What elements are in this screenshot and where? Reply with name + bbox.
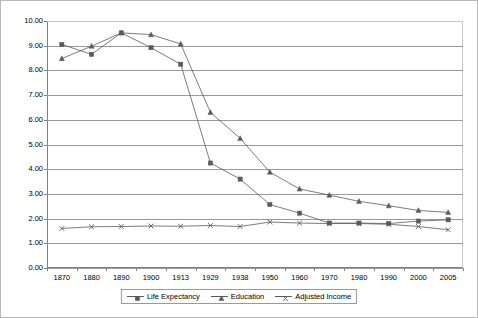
series-line bbox=[62, 33, 448, 224]
x-axis-tick bbox=[314, 268, 315, 271]
x-axis-tick-label: 1960 bbox=[291, 273, 308, 282]
data-point-square bbox=[149, 46, 153, 50]
legend-marker-glyph bbox=[281, 294, 290, 303]
series-line bbox=[62, 33, 448, 213]
x-axis-tick-label: 2005 bbox=[440, 273, 457, 282]
x-axis-tick bbox=[225, 268, 226, 271]
data-point-square bbox=[60, 42, 64, 46]
x-axis-tick bbox=[344, 268, 345, 271]
y-axis-tick-label: 4.00 bbox=[3, 165, 43, 173]
data-point-square bbox=[89, 52, 93, 56]
chart-legend: Life ExpectancyEducationAdjusted Income bbox=[121, 289, 357, 304]
legend-marker-glyph bbox=[217, 294, 226, 303]
data-point-square bbox=[268, 202, 272, 206]
legend-item-label: Adjusted Income bbox=[295, 292, 351, 301]
x-axis-tick-label: 1890 bbox=[113, 273, 130, 282]
x-axis-tick bbox=[196, 268, 197, 271]
y-axis-tick-label: 3.00 bbox=[3, 190, 43, 198]
series-education bbox=[59, 30, 450, 214]
x-axis-tick bbox=[404, 268, 405, 271]
x-axis-tick-label: 1950 bbox=[262, 273, 279, 282]
data-point-square bbox=[387, 221, 391, 225]
y-axis-tick-label: 8.00 bbox=[3, 66, 43, 74]
x-axis-tick-label: 1880 bbox=[83, 273, 100, 282]
legend-marker-glyph bbox=[133, 294, 142, 303]
x-axis-tick-label: 1913 bbox=[172, 273, 189, 282]
y-axis-tick-label: 5.00 bbox=[3, 141, 43, 149]
x-axis-tick bbox=[285, 268, 286, 271]
series-layer bbox=[47, 21, 463, 268]
x-axis-tick bbox=[374, 268, 375, 271]
y-axis-tick-label: 7.00 bbox=[3, 91, 43, 99]
data-point-triangle bbox=[219, 296, 224, 301]
x-axis-tick bbox=[106, 268, 107, 271]
y-axis-tick-label: 9.00 bbox=[3, 42, 43, 50]
data-point-square bbox=[135, 296, 139, 300]
x-axis-tick-label: 1970 bbox=[321, 273, 338, 282]
data-point-square bbox=[238, 177, 242, 181]
x-axis-tick-label: 1938 bbox=[232, 273, 249, 282]
series-adjusted-income bbox=[59, 220, 450, 232]
x-axis-tick bbox=[47, 268, 48, 271]
x-axis-tick-label: 2000 bbox=[410, 273, 427, 282]
x-axis-tick-label: 1990 bbox=[380, 273, 397, 282]
data-point-cross bbox=[283, 296, 288, 301]
data-point-triangle bbox=[208, 110, 213, 115]
legend-item-adjusted-income[interactable]: Adjusted Income bbox=[275, 292, 351, 301]
legend-item-education[interactable]: Education bbox=[211, 292, 264, 301]
y-axis-tick-label: 0.00 bbox=[3, 264, 43, 272]
data-point-square bbox=[179, 62, 183, 66]
data-point-square bbox=[416, 219, 420, 223]
legend-item-label: Life Expectancy bbox=[147, 292, 200, 301]
legend-item-label: Education bbox=[231, 292, 264, 301]
y-axis-tick-label: 2.00 bbox=[3, 215, 43, 223]
y-axis-tick-label: 6.00 bbox=[3, 116, 43, 124]
data-point-square bbox=[446, 218, 450, 222]
y-axis-tick-label: 10.00 bbox=[3, 17, 43, 25]
x-axis-tick bbox=[136, 268, 137, 271]
legend-marker-triangle-icon bbox=[211, 292, 228, 301]
legend-item-life-expectancy[interactable]: Life Expectancy bbox=[127, 292, 200, 301]
x-axis-tick-label: 1980 bbox=[351, 273, 368, 282]
data-point-square bbox=[208, 161, 212, 165]
legend-marker-square-icon bbox=[127, 292, 144, 301]
y-axis-tick-label: 1.00 bbox=[3, 239, 43, 247]
x-axis-tick bbox=[166, 268, 167, 271]
data-point-square bbox=[297, 211, 301, 215]
x-axis-tick bbox=[255, 268, 256, 271]
x-axis-tick-label: 1900 bbox=[143, 273, 160, 282]
series-life-expectancy bbox=[60, 31, 450, 226]
x-axis-tick bbox=[433, 268, 434, 271]
data-point-triangle bbox=[89, 43, 94, 48]
x-axis-tick-label: 1929 bbox=[202, 273, 219, 282]
x-axis-tick bbox=[463, 268, 464, 271]
x-axis-tick-label: 1870 bbox=[54, 273, 71, 282]
legend-marker-cross-icon bbox=[275, 292, 292, 301]
chart-container: 0.001.002.003.004.005.006.007.008.009.00… bbox=[0, 0, 478, 318]
data-point-triangle bbox=[297, 186, 302, 191]
x-axis-tick bbox=[77, 268, 78, 271]
